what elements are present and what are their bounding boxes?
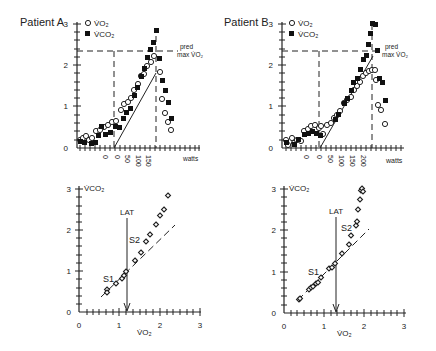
lat-label: LAT (329, 207, 343, 216)
svg-text:0: 0 (114, 155, 121, 159)
s2-label: S2 (129, 235, 140, 245)
x-tick-label: 0 (77, 321, 82, 330)
panel-patient-a: Patient A 3 2 1 0 0 0 50 100 150 watts (20, 16, 203, 167)
y-tick-label: 0 (67, 308, 72, 317)
panel-title: Patient A (20, 16, 65, 28)
x-axis-label: watts (385, 157, 403, 164)
s2-label: S2 (341, 223, 352, 233)
x-tick-label: 1 (322, 322, 327, 331)
svg-text:50: 50 (327, 155, 334, 163)
y-axis-label: V̇CO₂ (289, 184, 309, 193)
x-axis-label: V̇O₂ (137, 328, 152, 337)
y-tick-label: 1 (64, 102, 69, 111)
x-tick-label: 0 (282, 322, 287, 331)
x-axis-label: V̇O₂ (337, 329, 352, 338)
x-tick-label: 2 (158, 321, 163, 330)
vo2-points (77, 53, 173, 142)
x-tick-label: 3 (402, 322, 407, 331)
panel-patient-b: Patient B 3 2 1 0 0 0 50 100 150 200 wat… (224, 16, 408, 167)
panel-lower-left: 3 2 1 0 V̇CO₂ 0 1 2 3 V̇O₂ LAT S1 S2 (67, 184, 203, 337)
y-tick-label: 0 (269, 144, 274, 153)
lat-label: LAT (120, 208, 134, 217)
svg-text:200: 200 (360, 155, 367, 167)
y-tick-label: 3 (64, 20, 69, 29)
y-tick-label: 0 (64, 144, 69, 153)
x-axis-label: watts (182, 155, 199, 162)
x-tick-label: 2 (362, 322, 367, 331)
y-tick-label: 2 (64, 61, 69, 70)
y-tick-label: 1 (67, 267, 72, 276)
y-tick-label: 0 (272, 309, 277, 318)
y-tick-label: 2 (67, 226, 72, 235)
legend-vo2: V̇O₂ (298, 19, 313, 28)
y-tick-label: 2 (269, 61, 274, 70)
y-axis-label: V̇CO₂ (84, 184, 104, 193)
panel-title: Patient B (224, 16, 269, 28)
legend-vco2: V̇CO₂ (94, 30, 114, 39)
max-vo2-label: max V̇O₂ (177, 51, 203, 58)
y-tick-label: 1 (272, 268, 277, 277)
svg-text:0: 0 (303, 155, 310, 159)
y-tick-label: 3 (272, 185, 277, 194)
s1-label: S1 (308, 267, 319, 277)
svg-text:100: 100 (135, 155, 142, 167)
panel-lower-right: 3 2 1 0 V̇CO₂ 0 1 2 3 V̇O₂ LAT S1 S2 (272, 184, 407, 338)
max-vo2-label: max V̇O₂ (382, 51, 408, 58)
pred-label: pred (180, 43, 193, 51)
legend-vco2: V̇CO₂ (298, 30, 318, 39)
svg-text:150: 150 (145, 155, 152, 167)
svg-text:0: 0 (316, 155, 323, 159)
svg-text:150: 150 (349, 155, 356, 167)
svg-text:100: 100 (338, 155, 345, 167)
vco2-points (78, 28, 174, 146)
y-tick-label: 3 (269, 20, 274, 29)
y-tick-label: 2 (272, 226, 277, 235)
watts-ticks: 0 0 50 100 150 (102, 155, 152, 167)
y-tick-label: 1 (269, 102, 274, 111)
s1-label: S1 (103, 274, 114, 284)
x-tick-label: 1 (117, 321, 122, 330)
y-tick-label: 3 (67, 185, 72, 194)
svg-text:50: 50 (124, 155, 131, 163)
x-tick-label: 3 (198, 321, 203, 330)
legend-vo2: V̇O₂ (94, 19, 109, 28)
svg-text:0: 0 (102, 155, 109, 159)
figure: Patient A 3 2 1 0 0 0 50 100 150 watts (0, 0, 436, 351)
pred-label: pred (385, 43, 398, 51)
